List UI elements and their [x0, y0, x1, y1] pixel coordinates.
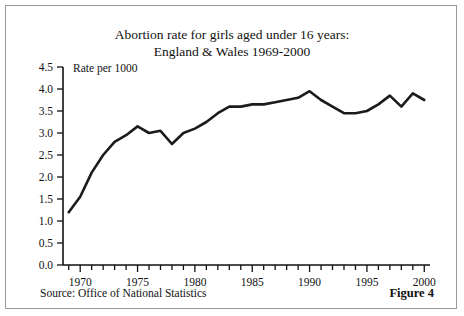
y-tick-label: 3.5 [39, 105, 54, 117]
y-axis-tick-group: 0.00.51.01.52.02.53.03.54.04.5 [39, 61, 63, 271]
source-note: Source: Office of National Statistics [40, 287, 207, 299]
line-chart-plot: 0.00.51.01.52.02.53.03.54.04.5 197019751… [6, 6, 458, 310]
y-tick-label: 0.0 [39, 259, 54, 271]
x-tick-label: 1985 [241, 276, 264, 288]
figure-frame: Abortion rate for girls aged under 16 ye… [5, 5, 457, 309]
y-axis-unit-label: Rate per 1000 [73, 62, 138, 75]
y-tick-label: 2.5 [39, 149, 54, 161]
x-axis-tick-group: 1970197519801985199019952000 [69, 265, 436, 288]
x-tick-label: 1990 [298, 276, 321, 288]
y-tick-label: 3.0 [39, 127, 54, 139]
data-series-line [69, 91, 425, 212]
figure-label: Figure 4 [389, 286, 434, 301]
y-tick-label: 4.0 [39, 83, 54, 95]
x-tick-label: 1995 [355, 276, 378, 288]
y-tick-label: 1.0 [39, 215, 54, 227]
y-tick-label: 0.5 [39, 237, 54, 249]
y-tick-label: 2.0 [39, 171, 54, 183]
y-tick-label: 4.5 [39, 61, 54, 73]
y-tick-label: 1.5 [39, 193, 54, 205]
